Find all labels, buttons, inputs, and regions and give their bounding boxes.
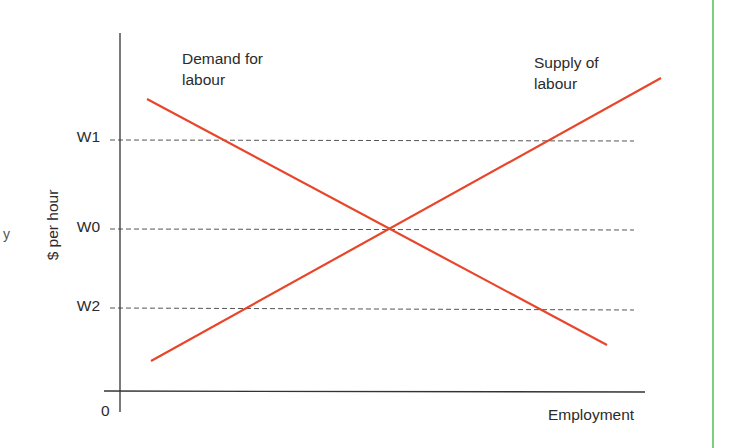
y-tick-w1: W1 <box>60 128 100 146</box>
supply-curve <box>151 78 661 361</box>
demand-curve-label: Demand for labour <box>182 48 263 90</box>
x-axis-label: Employment <box>548 404 634 425</box>
page-border-line <box>712 0 714 448</box>
y-tick-w0: W0 <box>60 218 100 236</box>
w2-dashed-line <box>110 308 634 310</box>
supply-curve-label: Supply of labour <box>534 52 599 94</box>
cropped-text-fragment: y <box>3 226 10 242</box>
origin-label: 0 <box>101 400 110 421</box>
w1-dashed-line <box>110 140 634 141</box>
w0-dashed-line <box>110 229 634 230</box>
y-tick-w2: W2 <box>60 297 100 315</box>
y-axis-label: $ per hour <box>44 180 62 270</box>
labour-market-chart <box>0 0 730 448</box>
x-axis <box>104 391 645 392</box>
